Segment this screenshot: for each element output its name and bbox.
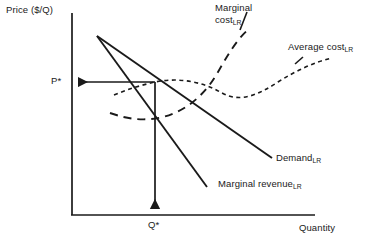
average-cost-label-subscript: LR (344, 46, 353, 53)
marginal-cost-curve (110, 28, 250, 119)
price-star-label: P* (51, 75, 61, 87)
average-cost-label-text: Average cost (288, 41, 344, 52)
average-cost-curve (114, 58, 332, 97)
marginal-cost-label-subscript: LR (233, 19, 242, 26)
quantity-star-label: Q* (148, 219, 159, 231)
marginal-revenue-label: Marginal revenueLR (218, 178, 302, 191)
chart-canvas (0, 0, 375, 241)
marginal-cost-label: Marginal costLR (215, 2, 252, 26)
demand-label-text: Demand (276, 152, 313, 163)
marginal-revenue-label-text: Marginal revenue (218, 178, 293, 189)
marginal-cost-label-line2: cost (215, 14, 233, 25)
average-cost-leader-line (295, 57, 303, 64)
marginal-revenue-curve (97, 36, 207, 187)
demand-label-subscript: LR (313, 157, 322, 164)
y-axis-label: Price ($/Q) (6, 4, 53, 16)
marginal-revenue-label-subscript: LR (293, 183, 302, 190)
demand-label: DemandLR (276, 152, 321, 165)
x-axis-label: Quantity (299, 222, 335, 234)
marginal-cost-label-line1: Marginal (215, 2, 252, 13)
average-cost-label: Average costLR (288, 41, 353, 54)
economics-chart-figure: Price ($/Q) Quantity P* Q* Marginal cost… (0, 0, 375, 241)
